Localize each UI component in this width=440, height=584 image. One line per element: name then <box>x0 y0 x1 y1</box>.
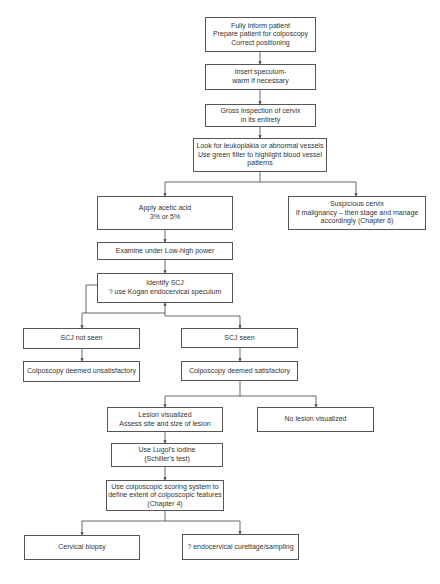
node-text: Use green filter to highlight blood vess… <box>198 151 322 160</box>
node-examine-power: Examine under Low-high power <box>97 242 233 260</box>
node-text: Fully inform patient <box>231 22 290 31</box>
node-text: SCJ seen <box>224 334 254 343</box>
node-text: Identify SCJ <box>146 279 184 288</box>
node-text: SCJ not seen <box>60 334 102 343</box>
node-text: in its entirety <box>241 116 280 125</box>
node-text: No lesion visualized <box>285 415 347 424</box>
node-text: define extent of colposcopic features <box>108 491 222 500</box>
node-text: If malignancy – then stage and manage <box>296 209 419 218</box>
node-text: Suspicious cervix <box>330 200 384 209</box>
node-text: Apply acetic acid <box>139 204 192 213</box>
node-scj-seen: SCJ seen <box>181 328 298 348</box>
node-scoring-system: Use colposcopic scoring system to define… <box>106 480 224 511</box>
node-text: Use Lugol's iodine <box>139 446 196 455</box>
node-lesion-visualized: Lesion visualized Assess site and size o… <box>107 407 223 432</box>
node-text: Look for leukoplakia or abnormal vessels <box>197 142 324 151</box>
node-text: Insert speculum- <box>235 68 287 77</box>
node-text: Colposcopy deemed satisfactory <box>189 367 290 376</box>
node-identify-scj: Identify SCJ ? use Kogan endocervical sp… <box>97 273 233 303</box>
node-colposcopy-unsatisfactory: Colposcopy deemed unsatisfactory <box>23 361 140 382</box>
node-text: ? endocervical curettage/sampling <box>187 543 293 552</box>
node-text: Prepare patient for colposcopy <box>213 30 308 39</box>
node-endocervical-curettage: ? endocervical curettage/sampling <box>182 534 299 560</box>
node-text: Use colposcopic scoring system to <box>111 483 218 492</box>
node-leukoplakia: Look for leukoplakia or abnormal vessels… <box>193 138 327 172</box>
node-text: Correct positioning <box>231 39 289 48</box>
node-insert-speculum: Insert speculum- warm if necessary <box>205 64 316 90</box>
node-text: patterns <box>247 159 272 168</box>
node-inform-patient: Fully inform patient Prepare patient for… <box>205 17 316 52</box>
node-cervical-biopsy: Cervical biopsy <box>24 535 140 560</box>
node-text: (Schiller's test) <box>144 455 190 464</box>
node-text: warm if necessary <box>232 77 288 86</box>
node-lugols-iodine: Use Lugol's iodine (Schiller's test) <box>111 443 223 467</box>
node-apply-acetic-acid: Apply acetic acid 3% or 5% <box>97 196 233 230</box>
node-gross-inspection: Gross inspection of cervix in its entire… <box>205 104 316 127</box>
flowchart: Fully inform patient Prepare patient for… <box>0 0 440 584</box>
node-text: (Chapter 4) <box>147 500 182 509</box>
node-scj-not-seen: SCJ not seen <box>23 328 140 349</box>
node-text: Cervical biopsy <box>58 543 105 552</box>
node-text: Lesion visualized <box>138 411 191 420</box>
node-text: Examine under Low-high power <box>116 247 214 256</box>
node-no-lesion-visualized: No lesion visualized <box>257 407 374 432</box>
node-text: Colposcopy deemed unsatisfactory <box>27 367 136 376</box>
node-text: Gross inspection of cervix <box>220 107 300 116</box>
node-text: ? use Kogan endocervical speculum <box>109 288 221 297</box>
node-text: 3% or 5% <box>150 213 180 222</box>
node-text: accordingly (Chapter 6) <box>321 217 394 226</box>
node-suspicious-cervix: Suspicious cervix If malignancy – then s… <box>288 196 426 230</box>
node-colposcopy-satisfactory: Colposcopy deemed satisfactory <box>181 361 298 381</box>
node-text: Assess site and size of lesion <box>119 420 210 429</box>
